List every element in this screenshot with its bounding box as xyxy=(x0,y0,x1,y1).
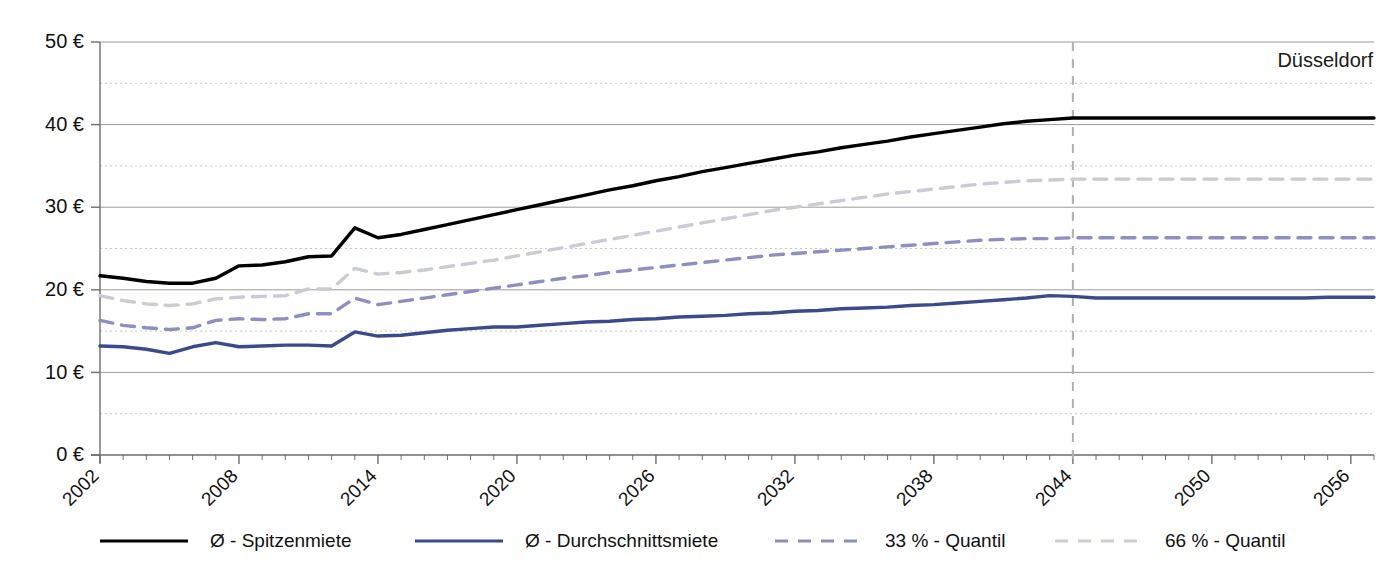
y-axis xyxy=(91,42,100,463)
legend-label: 33 % - Quantil xyxy=(885,530,1005,551)
grid-minor-group xyxy=(100,83,1374,413)
x-tick-label: 2026 xyxy=(614,465,659,510)
y-tick-label: 0 € xyxy=(56,443,84,465)
x-tick-labels: 2002200820142020202620322038204420502056 xyxy=(58,465,1354,510)
chart-container: 0 €10 €20 €30 €40 €50 € 2002200820142020… xyxy=(0,0,1385,588)
x-minor-ticks xyxy=(100,455,1374,464)
x-tick-label: 2014 xyxy=(336,465,381,510)
x-tick-label: 2032 xyxy=(753,465,798,510)
x-tick-label: 2020 xyxy=(475,465,520,510)
y-tick-label: 40 € xyxy=(45,113,84,135)
series-line-1 xyxy=(100,179,1374,305)
x-tick-label: 2044 xyxy=(1031,465,1076,510)
y-tick-label: 50 € xyxy=(45,30,84,52)
legend-label: Ø - Durchschnittsmiete xyxy=(525,530,718,551)
y-tick-labels: 0 €10 €20 €30 €40 €50 € xyxy=(45,30,84,465)
y-tick-label: 20 € xyxy=(45,278,84,300)
x-tick-label: 2050 xyxy=(1170,465,1215,510)
legend: Ø - SpitzenmieteØ - Durchschnittsmiete33… xyxy=(100,530,1285,551)
x-tick-label: 2056 xyxy=(1309,465,1354,510)
y-tick-label: 30 € xyxy=(45,195,84,217)
series-line-3 xyxy=(100,296,1374,354)
rent-forecast-line-chart: 0 €10 €20 €30 €40 €50 € 2002200820142020… xyxy=(0,0,1385,588)
x-tick-label: 2008 xyxy=(197,465,242,510)
city-label: Düsseldorf xyxy=(1277,49,1373,71)
x-tick-label: 2038 xyxy=(892,465,937,510)
grid-major-group xyxy=(100,42,1374,372)
series-group xyxy=(100,118,1374,353)
y-tick-label: 10 € xyxy=(45,361,84,383)
legend-label: 66 % - Quantil xyxy=(1165,530,1285,551)
x-tick-label: 2002 xyxy=(58,465,103,510)
legend-label: Ø - Spitzenmiete xyxy=(210,530,352,551)
